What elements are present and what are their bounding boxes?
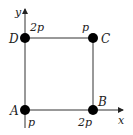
- point-c-charge: p: [82, 21, 89, 34]
- point-d-label: D: [8, 32, 19, 46]
- point-d-charge: 2p: [29, 21, 44, 34]
- point-b-charge: 2p: [77, 116, 92, 129]
- point-a: [20, 105, 30, 115]
- point-c: [88, 33, 98, 43]
- charge-square-diagram: y x A p B 2p C p D 2p: [0, 0, 133, 135]
- y-axis-label: y: [14, 6, 22, 19]
- x-axis-label: x: [118, 114, 125, 127]
- point-d: [20, 33, 30, 43]
- point-a-charge: p: [28, 116, 35, 129]
- point-a-label: A: [9, 104, 19, 118]
- point-b: [88, 105, 98, 115]
- point-c-label: C: [101, 32, 110, 46]
- point-b-label: B: [97, 95, 107, 109]
